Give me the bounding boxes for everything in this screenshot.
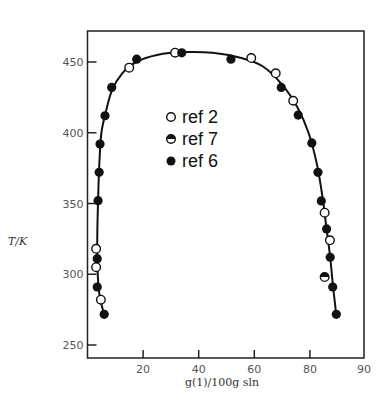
solubility-curve: [97, 52, 336, 315]
filled-circle-marker: [317, 196, 326, 205]
legend-item-ref-6: ref 6: [167, 151, 219, 171]
y-axis-label: T/K: [8, 235, 28, 248]
y-tick-label: 350: [63, 198, 84, 211]
filled-circle-marker: [93, 282, 102, 291]
solubility-chart: 2040608090250300350400450 g(1)/100g sln …: [0, 0, 385, 412]
filled-circle-marker: [328, 282, 337, 291]
open-circle-marker: [271, 69, 280, 78]
legend-label: ref 7: [182, 129, 218, 149]
filled-circle-marker: [95, 168, 104, 177]
open-circle-marker: [97, 295, 106, 304]
x-axis-label: g(1)/100g sln: [185, 376, 259, 389]
legend-label: ref 2: [182, 107, 218, 127]
x-tick-label: 80: [303, 363, 317, 376]
y-tick-label: 250: [63, 339, 84, 352]
legend: ref 2 ref 7 ref 6: [167, 107, 219, 171]
filled-circle-marker: [177, 48, 186, 57]
filled-circle-marker: [132, 55, 141, 64]
filled-circle-marker: [100, 310, 109, 319]
x-tick-label: 60: [247, 363, 261, 376]
filled-circle-marker: [107, 83, 116, 92]
filled-circle-icon: [167, 157, 176, 166]
filled-circle-marker: [226, 55, 235, 64]
open-circle-marker: [247, 54, 256, 63]
open-circle-marker: [326, 236, 335, 245]
open-circle-marker: [92, 244, 101, 253]
filled-circle-marker: [313, 168, 322, 177]
filled-circle-marker: [322, 224, 331, 233]
filled-circle-marker: [307, 138, 316, 147]
x-tick-label: 20: [136, 363, 150, 376]
filled-circle-marker: [95, 139, 104, 148]
filled-circle-marker: [332, 310, 341, 319]
fitted-curve: [97, 52, 336, 315]
open-circle-marker: [92, 263, 101, 272]
legend-label: ref 6: [182, 151, 218, 171]
filled-circle-marker: [93, 254, 102, 263]
open-circle-icon: [167, 113, 176, 122]
data-points: [92, 48, 341, 319]
x-tick-label: 90: [357, 363, 371, 376]
half-filled-circle-marker: [320, 273, 329, 282]
filled-circle-marker: [100, 111, 109, 120]
legend-item-ref-7: ref 7: [167, 129, 218, 149]
open-circle-marker: [125, 63, 134, 72]
filled-circle-marker: [326, 253, 335, 262]
filled-circle-marker: [277, 83, 286, 92]
filled-circle-marker: [294, 110, 303, 119]
y-tick-label: 400: [63, 127, 84, 140]
y-tick-label: 300: [63, 268, 84, 281]
open-circle-marker: [289, 96, 298, 105]
x-tick-label: 40: [192, 363, 206, 376]
y-tick-label: 450: [63, 56, 84, 69]
open-circle-marker: [320, 208, 329, 217]
legend-item-ref-2: ref 2: [167, 107, 218, 127]
